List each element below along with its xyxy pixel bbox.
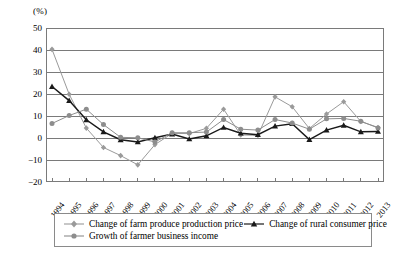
- data-point-marker: [50, 121, 55, 126]
- data-point-marker: [118, 135, 123, 140]
- data-point-marker: [49, 84, 55, 89]
- data-point-marker: [187, 130, 192, 135]
- series-line: [52, 109, 378, 142]
- legend-item-farm-produce-price: Change of farm produce production price: [63, 218, 243, 230]
- line-chart-canvas: [46, 28, 384, 182]
- circle-marker-gray-icon: [63, 231, 85, 241]
- y-axis-unit-label: (%): [33, 6, 47, 16]
- legend-label-rural-consumer-price: Change of rural consumer price: [269, 218, 387, 230]
- data-point-marker: [341, 122, 347, 127]
- triangle-marker-black-icon: [243, 219, 265, 229]
- y-axis-tick-label: −20: [28, 178, 42, 187]
- y-axis-tick-label: 10: [33, 112, 42, 121]
- data-point-marker: [307, 127, 312, 132]
- data-point-marker: [341, 116, 346, 121]
- legend-row-1: Change of farm produce production price …: [63, 218, 365, 230]
- data-point-marker: [272, 94, 277, 100]
- y-axis-tick-label: −10: [28, 156, 42, 165]
- chart-legend: Change of farm produce production price …: [54, 213, 372, 247]
- y-axis-tick-label: 20: [33, 90, 42, 99]
- series-diamond: [49, 47, 380, 168]
- chart-figure: (%) 50403020100−10−20 199419951996199719…: [0, 0, 399, 259]
- series-triangle: [49, 84, 381, 145]
- y-axis-tick-label: 30: [33, 68, 42, 77]
- data-point-marker: [67, 113, 72, 118]
- data-point-marker: [376, 125, 381, 130]
- diamond-marker-light-icon: [63, 219, 85, 229]
- data-point-marker: [204, 130, 209, 135]
- series-line: [52, 49, 378, 165]
- data-point-marker: [118, 153, 123, 159]
- data-point-marker: [49, 47, 54, 53]
- data-point-marker: [170, 130, 175, 135]
- legend-item-farmer-business-income: Growth of farmer business income: [63, 230, 218, 242]
- legend-label-farmer-business-income: Growth of farmer business income: [89, 230, 218, 242]
- data-point-marker: [84, 107, 89, 112]
- data-point-marker: [255, 128, 260, 133]
- data-point-marker: [358, 119, 363, 124]
- legend-label-farm-produce-price: Change of farm produce production price: [89, 218, 243, 230]
- data-point-marker: [67, 91, 72, 97]
- data-point-marker: [238, 127, 243, 132]
- series-circle: [50, 107, 381, 145]
- data-point-marker: [273, 117, 278, 122]
- plot-area: 50403020100−10−20 1994199519961997199819…: [46, 28, 384, 182]
- data-point-marker: [135, 135, 140, 140]
- data-point-marker: [152, 139, 157, 144]
- y-axis-tick-label: 40: [33, 46, 42, 55]
- legend-row-2: Growth of farmer business income: [63, 230, 365, 242]
- data-point-marker: [101, 122, 106, 127]
- x-axis-tick-label: 2013: [375, 201, 392, 220]
- y-axis-tick-label: 50: [33, 24, 42, 33]
- data-point-marker: [221, 124, 227, 129]
- data-point-marker: [324, 116, 329, 121]
- y-axis-tick-label: 0: [38, 134, 43, 143]
- data-point-marker: [290, 121, 295, 126]
- legend-item-rural-consumer-price: Change of rural consumer price: [243, 218, 387, 230]
- data-point-marker: [221, 117, 226, 122]
